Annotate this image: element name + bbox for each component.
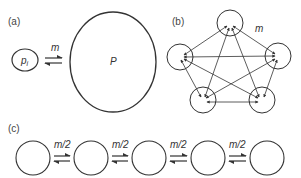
migration-arrows bbox=[181, 26, 277, 102]
deme-circle bbox=[217, 10, 243, 36]
migration-rate-label-a: m bbox=[51, 42, 59, 53]
bidirectional-arrow-icon bbox=[45, 58, 62, 63]
bidirectional-arrow-icon bbox=[229, 156, 246, 161]
panel-a: (a) pi m P bbox=[8, 12, 156, 112]
migration-rate-label-c: m/2 bbox=[170, 139, 187, 150]
bidirectional-arrow-icon bbox=[112, 156, 128, 161]
migration-rate-label-c: m/2 bbox=[229, 139, 246, 150]
migration-models-diagram: (a) pi m P (b) m bbox=[0, 0, 301, 178]
mainland-population-label: P bbox=[110, 56, 117, 67]
migration-rate-label-c: m/2 bbox=[54, 139, 71, 150]
panel-b: (b) m bbox=[167, 10, 291, 113]
bidirectional-arrow-icon bbox=[54, 156, 70, 161]
migration-rate-label-c: m/2 bbox=[112, 139, 129, 150]
panel-c: (c) m/2 m/2 m/2 m/2 bbox=[8, 123, 284, 175]
deme-circle bbox=[249, 87, 275, 113]
stepping-stone-deme bbox=[132, 141, 166, 175]
migration-rate-label-b: m bbox=[255, 23, 263, 34]
panel-a-label: (a) bbox=[8, 16, 20, 27]
panel-c-label: (c) bbox=[8, 123, 20, 134]
panel-b-label: (b) bbox=[172, 16, 184, 27]
stepping-stone-deme bbox=[250, 141, 284, 175]
stepping-stone-deme bbox=[191, 141, 225, 175]
island-population-label: pi bbox=[20, 55, 29, 67]
bidirectional-arrow-icon bbox=[170, 156, 187, 161]
deme-circle bbox=[190, 87, 216, 113]
stepping-stone-deme bbox=[16, 141, 50, 175]
stepping-stone-deme bbox=[74, 141, 108, 175]
